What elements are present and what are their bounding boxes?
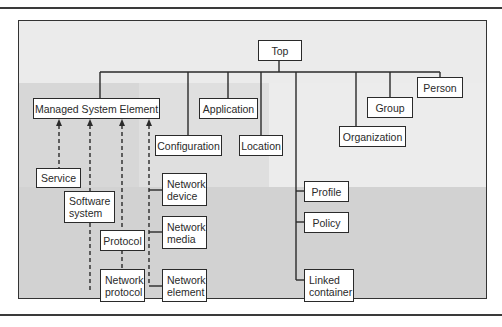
node-top: Top xyxy=(258,40,302,61)
node-location: Location xyxy=(239,135,283,156)
node-profile: Profile xyxy=(304,181,349,202)
node-label: Person xyxy=(423,82,456,94)
node-label: Protocol xyxy=(103,235,142,247)
node-application: Application xyxy=(199,98,258,119)
node-service: Service xyxy=(36,168,81,188)
node-label-line1: Network xyxy=(105,274,144,286)
node-label-line1: Software xyxy=(69,195,110,207)
node-label-line2: protocol xyxy=(105,286,144,298)
node-label-line1: Linked xyxy=(309,274,352,286)
node-label-line2: system xyxy=(69,207,110,219)
node-label: Location xyxy=(241,140,281,152)
node-label: Service xyxy=(41,172,76,184)
node-label-line2: element xyxy=(167,286,206,298)
node-label: Configuration xyxy=(157,140,219,152)
node-policy: Policy xyxy=(304,212,349,233)
node-configuration: Configuration xyxy=(155,135,222,156)
node-label: Top xyxy=(272,45,289,57)
node-label-line1: Network xyxy=(167,221,206,233)
node-label-line2: container xyxy=(309,286,352,298)
node-protocol: Protocol xyxy=(100,230,145,251)
node-network-device: Network device xyxy=(162,173,207,206)
node-group: Group xyxy=(367,97,413,118)
node-label-line1: Network xyxy=(167,274,206,286)
node-label-line2: media xyxy=(167,233,206,245)
node-organization: Organization xyxy=(339,126,406,147)
node-network-element: Network element xyxy=(162,269,207,302)
node-label: Profile xyxy=(312,186,342,198)
node-label: Managed System Element xyxy=(35,103,158,115)
node-network-protocol: Network protocol xyxy=(100,269,145,302)
node-label: Application xyxy=(203,103,254,115)
node-label-line2: device xyxy=(167,190,206,202)
node-linked-container: Linked container xyxy=(304,269,354,302)
node-label: Policy xyxy=(312,217,340,229)
node-software-system: Software system xyxy=(64,191,115,223)
node-person: Person xyxy=(417,77,463,98)
node-network-media: Network media xyxy=(162,216,207,249)
node-label: Organization xyxy=(343,131,403,143)
node-managed-system-element: Managed System Element xyxy=(33,98,160,119)
node-label: Group xyxy=(375,102,404,114)
node-label-line1: Network xyxy=(167,178,206,190)
connector-lines xyxy=(0,0,502,327)
